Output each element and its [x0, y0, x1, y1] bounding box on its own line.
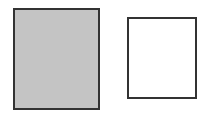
empty-rectangle: [127, 17, 197, 99]
filled-rectangle: [13, 8, 100, 110]
